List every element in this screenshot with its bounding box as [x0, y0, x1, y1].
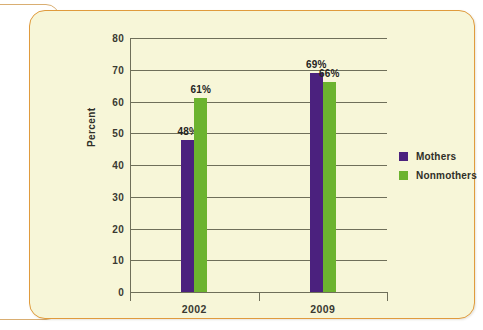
x-axis-tick	[259, 292, 260, 301]
y-axis-tick-label: 50	[112, 128, 124, 139]
y-axis-tick-label: 0	[118, 287, 124, 298]
x-axis-tick	[130, 292, 131, 301]
gridline	[130, 70, 387, 71]
y-axis-tick-label: 60	[112, 96, 124, 107]
bar-value-label: 66%	[319, 68, 340, 79]
chart-panel: 48%61%69%66% 01020304050607080 20022009 …	[29, 10, 475, 319]
gridline	[130, 133, 387, 134]
y-axis-tick-label: 20	[112, 223, 124, 234]
y-axis-tick-label: 40	[112, 160, 124, 171]
bar-mothers-2002[interactable]	[181, 140, 194, 292]
bar-mothers-2009[interactable]	[310, 73, 323, 292]
bar-nonmothers-2009[interactable]	[323, 82, 336, 292]
gridline	[130, 260, 387, 261]
y-axis-tick-label: 70	[112, 64, 124, 75]
legend-item[interactable]: Mothers	[399, 148, 477, 164]
y-axis-tick-label: 30	[112, 191, 124, 202]
plot-area: 48%61%69%66%	[130, 38, 387, 292]
legend-item-label: Mothers	[416, 151, 456, 162]
chart-legend: MothersNonmothers	[399, 148, 477, 186]
y-axis-title: Percent	[86, 108, 97, 148]
x-axis-category-label: 2009	[310, 303, 335, 315]
x-axis-tick	[387, 292, 388, 301]
legend-swatch-nonmothers	[399, 171, 408, 180]
y-axis-tick-label: 80	[112, 33, 124, 44]
legend-item[interactable]: Nonmothers	[399, 167, 477, 183]
gridline	[130, 102, 387, 103]
bar-value-label: 61%	[190, 84, 211, 95]
legend-swatch-mothers	[399, 152, 408, 161]
gridline	[130, 165, 387, 166]
y-axis-tick-label: 10	[112, 255, 124, 266]
legend-item-label: Nonmothers	[416, 170, 477, 181]
bar-nonmothers-2002[interactable]	[194, 98, 207, 292]
gridline	[130, 38, 387, 39]
x-axis-category-label: 2002	[182, 303, 207, 315]
gridline	[130, 229, 387, 230]
gridline	[130, 197, 387, 198]
